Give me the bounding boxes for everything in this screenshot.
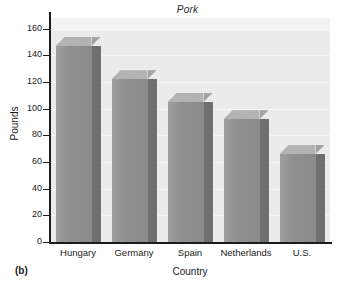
y-axis-tick-label: 100 [16, 104, 42, 113]
y-axis-tick [43, 135, 50, 136]
y-axis-tick-label: 40 [16, 184, 42, 193]
bar-side-face [204, 102, 213, 242]
bar-top-face [168, 93, 204, 102]
bar-front-face [168, 102, 205, 242]
y-axis-tick [43, 55, 50, 56]
y-axis-tick-label: 0 [16, 237, 42, 246]
bar-front-face [56, 46, 93, 242]
gridline [50, 29, 330, 30]
bar-top-face [224, 110, 260, 119]
y-axis-tick-label: 60 [16, 157, 42, 166]
x-axis-line [49, 242, 332, 244]
bar[interactable] [168, 93, 213, 242]
y-axis-tick-label: 120 [16, 77, 42, 86]
y-axis-tick [43, 29, 50, 30]
y-axis-tick [43, 109, 50, 110]
y-axis-tick-label: 80 [16, 130, 42, 139]
y-axis-tick [43, 82, 50, 83]
bar[interactable] [112, 70, 157, 242]
bar-front-face [224, 119, 261, 242]
bar-top-face-bevel [148, 70, 157, 79]
panel-label: (b) [15, 265, 28, 276]
bar-top-face [280, 145, 316, 154]
bar-top-face-bevel [92, 37, 101, 46]
bar-top-face [56, 37, 92, 46]
y-axis-tick [43, 162, 50, 163]
bar-top-face [112, 70, 148, 79]
bar[interactable] [280, 145, 325, 242]
y-axis-title: Pounds [9, 89, 20, 159]
y-axis-tick [43, 215, 50, 216]
y-axis-line [49, 12, 51, 244]
bar-side-face [92, 46, 101, 242]
bar-top-face-bevel [316, 145, 325, 154]
bar-front-face [112, 79, 149, 242]
pork-bar-chart-figure: Pork 020406080100120140160 Pounds Hungar… [0, 0, 341, 297]
y-axis-tick [43, 189, 50, 190]
bar-top-face-bevel [204, 93, 213, 102]
bar[interactable] [56, 37, 101, 242]
y-axis-tick-label: 160 [16, 24, 42, 33]
bar-top-face-bevel [260, 110, 269, 119]
x-axis-category-label: U.S. [252, 247, 341, 258]
bar-side-face [316, 154, 325, 242]
bar-side-face [260, 119, 269, 242]
x-axis-title: Country [50, 266, 330, 277]
chart-title: Pork [45, 4, 330, 15]
y-axis-tick [43, 242, 50, 243]
bar-front-face [280, 154, 317, 242]
y-axis-tick-label: 20 [16, 210, 42, 219]
bar[interactable] [224, 110, 269, 242]
plot-area [50, 18, 330, 242]
bar-side-face [148, 79, 157, 242]
y-axis-tick-label: 140 [16, 50, 42, 59]
